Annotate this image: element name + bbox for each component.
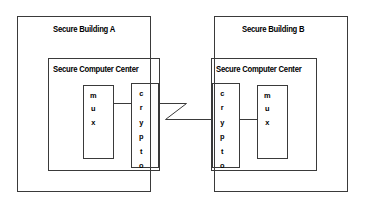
building-a-center-title: Secure Computer Center: [53, 66, 139, 74]
crypto-b-box: [213, 84, 240, 168]
crypto-a-label: crypto: [139, 90, 144, 169]
stack-letter: u: [91, 105, 96, 112]
building-b-outer-box: [215, 17, 348, 192]
stack-letter: m: [264, 92, 271, 99]
stack-letter: u: [265, 105, 270, 112]
building-b-center-title: Secure Computer Center: [216, 66, 302, 74]
stack-letter: y: [220, 119, 224, 126]
stack-letter: p: [220, 133, 225, 140]
stack-letter: x: [265, 119, 269, 126]
stack-letter: o: [139, 162, 144, 169]
stack-letter: x: [91, 119, 95, 126]
stack-letter: r: [140, 104, 143, 111]
building-b-title: Secure Building B: [242, 26, 304, 34]
crypto-a-box: [132, 84, 159, 168]
stack-letter: o: [220, 162, 225, 169]
building-a-title: Secure Building A: [53, 26, 115, 34]
network-security-diagram: Secure Building A Secure Computer Center…: [0, 0, 368, 212]
stack-letter: c: [139, 90, 143, 97]
stack-letter: m: [90, 92, 97, 99]
mux-a-label: mux: [90, 92, 97, 126]
stack-letter: c: [220, 90, 224, 97]
stack-letter: t: [221, 148, 223, 155]
stack-letter: y: [139, 119, 143, 126]
stack-letter: p: [139, 133, 144, 140]
mux-b-box: [258, 86, 288, 159]
crypto-b-label: crypto: [220, 90, 225, 169]
mux-a-box: [84, 86, 114, 159]
stack-letter: r: [221, 104, 224, 111]
stack-letter: t: [140, 148, 142, 155]
mux-b-label: mux: [264, 92, 271, 126]
unsecured-link-zigzag: [159, 104, 213, 120]
